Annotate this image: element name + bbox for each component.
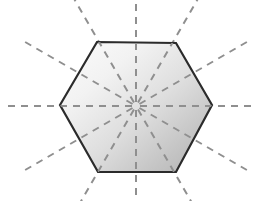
figure-canvas xyxy=(0,0,256,201)
hexagon-symmetry-diagram xyxy=(0,0,256,201)
